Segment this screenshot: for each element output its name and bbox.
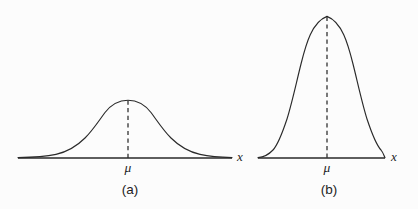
mean-label-b: μ: [323, 160, 331, 175]
axis-label-a: x: [236, 149, 243, 164]
mean-label-a: μ: [124, 160, 132, 175]
figure-container: μ x (a) μ x (b): [0, 0, 418, 209]
panel-caption-a: (a): [122, 182, 139, 197]
panel-caption-b: (b): [321, 182, 338, 197]
curve-b-narrow-bell: [258, 16, 385, 157]
normal-distribution-figure: μ x (a) μ x (b): [0, 0, 418, 209]
curve-a-wide-bell: [18, 100, 232, 157]
axis-label-b: x: [390, 149, 397, 164]
panel-b: μ x (b): [258, 16, 397, 197]
panel-a: μ x (a): [18, 100, 243, 197]
